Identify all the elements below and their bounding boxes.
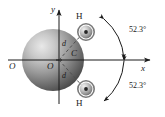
angle-arc-lower <box>104 61 124 101</box>
hydrogen-lower-label: H <box>76 99 83 108</box>
figure-container: y x O O H H d d C 52.3° 52.3° <box>0 0 165 117</box>
angle-label-upper: 52.3° <box>129 26 146 34</box>
charge-center-label: C <box>71 49 77 58</box>
hydrogen-upper-label: H <box>76 12 83 21</box>
distance-label-upper: d <box>62 40 66 48</box>
hydrogen-upper-nucleus <box>84 30 88 34</box>
distance-label-lower: d <box>62 72 66 80</box>
sphere-outside-label: O <box>9 62 16 71</box>
origin-label: O <box>47 62 54 71</box>
x-axis-label: x <box>141 64 145 73</box>
angle-label-lower: 52.3° <box>129 82 146 90</box>
y-axis-label: y <box>51 5 55 14</box>
angle-arc-upper <box>104 19 124 59</box>
hydrogen-lower-nucleus <box>84 87 88 91</box>
